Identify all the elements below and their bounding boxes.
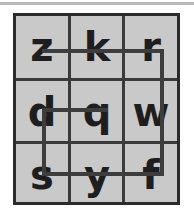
connector-top-row: [42, 49, 162, 53]
cell-r0c1[interactable]: k: [71, 16, 123, 78]
connector-bottom-row: [42, 172, 164, 176]
cell-r1c2[interactable]: w: [125, 81, 177, 143]
letter-glyph: k: [84, 27, 111, 67]
connector-middle-row: [42, 108, 108, 112]
letter-glyph: q: [83, 92, 112, 132]
cell-r0c2[interactable]: r: [125, 16, 177, 78]
connector-right-col: [160, 49, 164, 175]
letter-glyph: r: [141, 27, 161, 67]
connector-left-col: [42, 108, 46, 174]
letter-grid-panel: z k r d q w s y f: [13, 13, 180, 205]
cell-r0c0[interactable]: z: [16, 16, 68, 78]
top-divider-rule: [0, 2, 194, 5]
letter-glyph: z: [30, 27, 53, 67]
screenshot-canvas: z k r d q w s y f: [0, 0, 194, 216]
cell-r1c1[interactable]: q: [71, 81, 123, 143]
